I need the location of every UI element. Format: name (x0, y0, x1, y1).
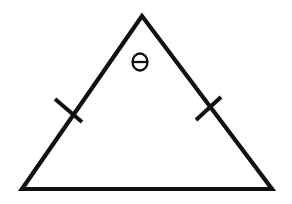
theta-angle-label (133, 54, 148, 71)
geometry-figure-canvas: Isosceles triangle with apex angle theta… (0, 0, 292, 204)
triangle-figure-svg: Isosceles triangle with apex angle theta… (0, 0, 292, 204)
